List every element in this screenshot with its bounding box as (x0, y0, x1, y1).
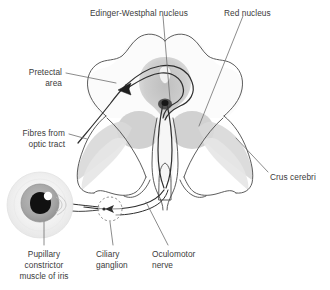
label-pretectal-area-line2: area (0, 78, 62, 88)
label-fibres-optic-tract-line2: optic tract (0, 139, 65, 149)
label-edinger-westphal-nucleus: Edinger-Westphal nucleus (90, 8, 188, 18)
ganglion-synapse-dot (102, 207, 105, 210)
label-fibres-optic-tract-line1: Fibres from (0, 128, 65, 138)
leader-ciliary-ganglion (110, 222, 113, 245)
label-oculomotor-nerve-line2: nerve (152, 260, 173, 270)
tegmental-column (154, 118, 176, 182)
label-pupillary-line3: muscle of iris (2, 271, 86, 281)
label-crus-cerebri: Crus cerebri (270, 172, 316, 182)
label-pupillary-line2: constrictor (4, 260, 84, 270)
peduncle-lower-right (184, 177, 236, 195)
label-ciliary-ganglion-line2: ganglion (96, 260, 128, 270)
label-oculomotor-nerve-line1: Oculomotor (152, 249, 195, 259)
pupil-highlight (44, 192, 52, 200)
label-ciliary-ganglion-line1: Ciliary (96, 249, 119, 259)
label-pretectal-area-line1: Pretectal (0, 67, 62, 77)
peduncle-lower-left (94, 177, 146, 195)
oculomotor-nerve-fibre (84, 190, 164, 209)
label-red-nucleus: Red nucleus (224, 8, 271, 18)
label-pupillary-line1: Pupillary (4, 249, 84, 259)
leader-oculomotor-nerve (146, 202, 168, 245)
eye-group (7, 172, 73, 238)
ciliary-ganglion-group (98, 197, 122, 221)
ew-nucleus-synapse-core (162, 100, 169, 106)
anatomical-diagram: Edinger-Westphal nucleus Red nucleus Pre… (0, 0, 330, 290)
